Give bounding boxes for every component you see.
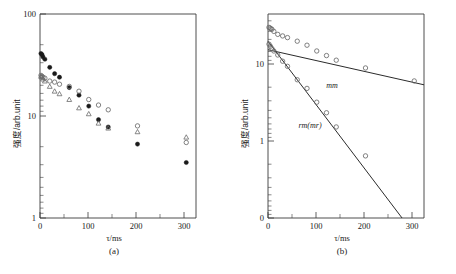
marker-filled-circle bbox=[184, 160, 188, 164]
panel-b-ytick-1: 1 bbox=[260, 136, 264, 146]
panel-a: 100 10 1 0 100 200 300 强度/arb.unit τ/ms … bbox=[0, 0, 228, 274]
panel-b-ytick-0: 0 bbox=[260, 213, 264, 223]
panel-a-caption: (a) bbox=[0, 246, 228, 256]
marker-rm(mr)-component bbox=[324, 111, 328, 115]
marker-filled-circle bbox=[87, 104, 91, 108]
panel-a-data-markers bbox=[39, 51, 189, 164]
panel-b-ylabel: 强度/arb.unit bbox=[238, 99, 250, 148]
marker-rm(mr)-component bbox=[315, 100, 319, 104]
marker-open-circle bbox=[87, 97, 91, 101]
panel-a-xtick-200: 200 bbox=[130, 221, 143, 231]
marker-open-triangle bbox=[86, 111, 91, 115]
panel-a-ylabel: 强度/arb.unit bbox=[10, 99, 22, 148]
fit-line-mm bbox=[268, 50, 424, 85]
marker-filled-circle bbox=[57, 75, 61, 79]
panel-a-ytick-10: 10 bbox=[28, 111, 37, 121]
panel-b: 10 1 0 0 100 200 300 mm rm(mr) 强度/arb.un… bbox=[228, 0, 456, 274]
marker-rm(mr)-component bbox=[305, 86, 309, 90]
marker-filled-circle bbox=[135, 142, 139, 146]
marker-filled-circle bbox=[53, 72, 57, 76]
marker-total-decay bbox=[363, 66, 367, 70]
panel-b-xtick-100: 100 bbox=[310, 221, 323, 231]
marker-open-circle bbox=[184, 140, 188, 144]
marker-total-decay bbox=[276, 32, 280, 36]
marker-total-decay bbox=[315, 49, 319, 53]
marker-open-triangle bbox=[52, 89, 57, 93]
panel-b-label-mm: mm bbox=[326, 81, 338, 90]
marker-total-decay bbox=[295, 39, 299, 43]
marker-open-triangle bbox=[184, 135, 189, 139]
panel-b-fit-lines bbox=[268, 41, 424, 218]
panel-a-xtick-100: 100 bbox=[82, 221, 95, 231]
panel-b-ytick-10: 10 bbox=[256, 59, 265, 69]
panel-b-xlabel: τ/ms bbox=[228, 233, 456, 243]
marker-open-circle bbox=[57, 82, 61, 86]
marker-total-decay bbox=[324, 53, 328, 57]
figure-root: 100 10 1 0 100 200 300 强度/arb.unit τ/ms … bbox=[0, 0, 456, 274]
panel-b-axes bbox=[268, 14, 424, 218]
panel-a-xtick-300: 300 bbox=[178, 221, 191, 231]
panel-a-ytick-100: 100 bbox=[23, 9, 36, 19]
marker-open-circle bbox=[77, 89, 81, 93]
marker-open-triangle bbox=[47, 84, 52, 88]
marker-open-triangle bbox=[135, 129, 140, 133]
marker-open-circle bbox=[48, 79, 52, 83]
marker-total-decay bbox=[285, 35, 289, 39]
marker-open-circle bbox=[96, 103, 100, 107]
marker-rm(mr)-component bbox=[363, 154, 367, 158]
marker-rm(mr)-component bbox=[334, 125, 338, 129]
marker-open-circle bbox=[135, 124, 139, 128]
marker-open-triangle bbox=[96, 121, 101, 125]
panel-a-y-minor-ticks bbox=[40, 45, 44, 214]
panel-b-xtick-0: 0 bbox=[266, 221, 270, 231]
marker-filled-circle bbox=[48, 65, 52, 69]
marker-open-triangle bbox=[77, 106, 82, 110]
panel-b-x-ticks bbox=[268, 212, 412, 218]
marker-filled-circle bbox=[43, 57, 47, 61]
panel-a-xlabel: τ/ms bbox=[0, 233, 228, 243]
panel-b-caption: (b) bbox=[228, 246, 456, 256]
marker-open-triangle bbox=[67, 97, 72, 101]
marker-open-triangle bbox=[57, 91, 62, 95]
panel-a-axes bbox=[40, 14, 196, 218]
marker-open-circle bbox=[106, 108, 110, 112]
marker-open-circle bbox=[52, 80, 56, 84]
panel-a-ytick-1: 1 bbox=[32, 213, 36, 223]
panel-b-xtick-300: 300 bbox=[406, 221, 419, 231]
marker-total-decay bbox=[305, 43, 309, 47]
panel-a-xtick-0: 0 bbox=[38, 221, 42, 231]
fit-line-rm(mr) bbox=[268, 41, 402, 218]
panel-a-x-ticks bbox=[40, 212, 184, 218]
panel-b-label-rm-mr: rm(mr) bbox=[298, 121, 321, 130]
marker-total-decay bbox=[334, 58, 338, 62]
panel-b-xtick-200: 200 bbox=[358, 221, 371, 231]
marker-total-decay bbox=[280, 34, 284, 38]
